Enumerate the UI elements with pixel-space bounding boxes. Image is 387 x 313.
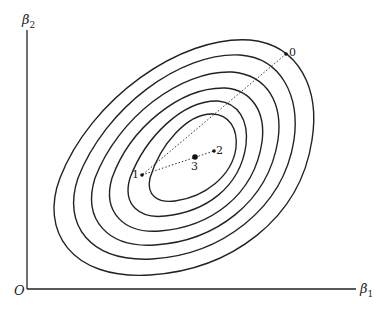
contour-lines: [54, 40, 314, 276]
point-label-2: 2: [216, 144, 223, 157]
point-label-3: 3: [191, 160, 198, 173]
origin-label: O: [14, 283, 25, 298]
point-1: [140, 173, 144, 177]
contour-5: [74, 55, 296, 259]
point-3: [192, 154, 198, 160]
point-label-1: 1: [132, 168, 139, 181]
point-label-0: 0: [289, 46, 296, 59]
x-axis-label: β1: [360, 281, 373, 299]
y-axis-label: β2: [22, 12, 35, 30]
contour-diagram: [0, 0, 387, 313]
point-0: [284, 52, 288, 56]
